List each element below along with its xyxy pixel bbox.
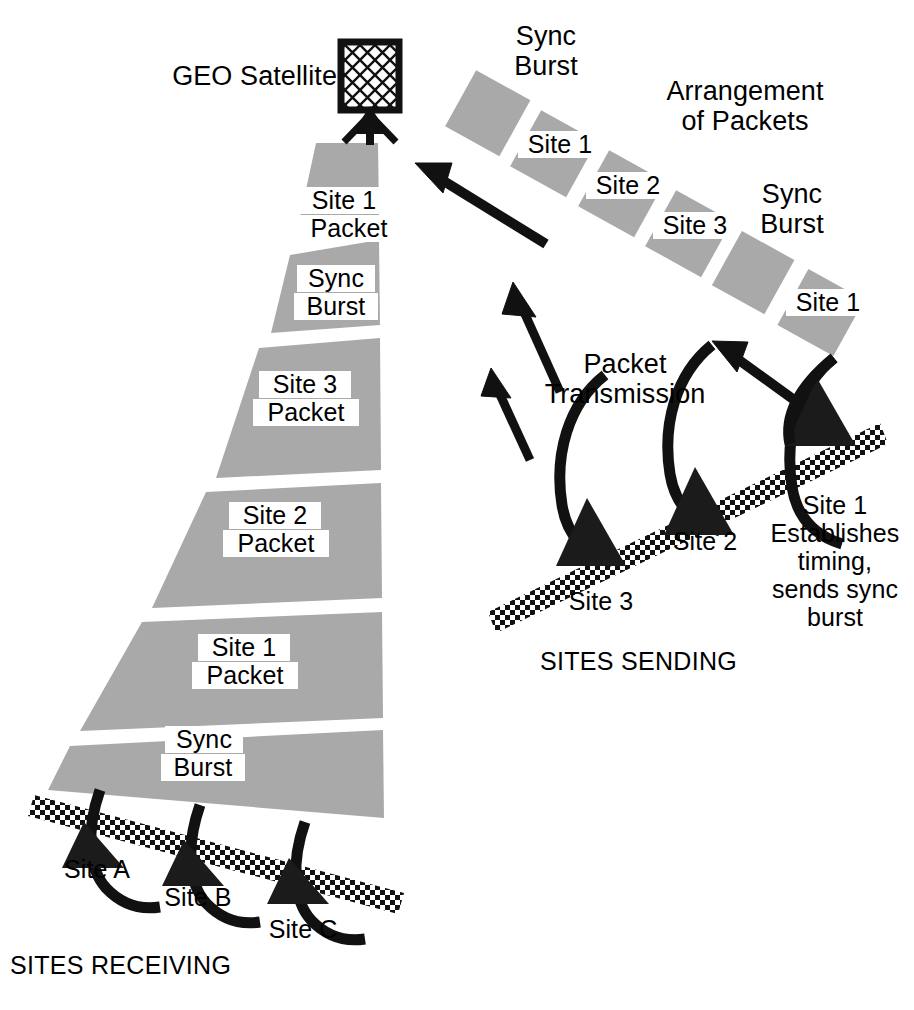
funnel-label-site1-packet-top-line1: Site 1 [298, 187, 390, 214]
satellite-label: GEO Satellite [167, 62, 337, 91]
sending-site-1-note-line3: timing, [760, 548, 910, 575]
sending-site-1-note-line4: sends sync [758, 576, 912, 603]
funnel-label-site1-packet-top-line2: Packet [296, 215, 402, 242]
funnel-label-sync-burst-lower-line2: Burst [161, 754, 245, 781]
receiving-site-a-label: Site A [42, 856, 152, 883]
arrangement-title-line2: of Packets [640, 107, 850, 136]
packet-label-site3: Site 3 [653, 212, 737, 239]
sending-site-3-label: Site 3 [546, 588, 656, 615]
packet-label-site1-a: Site 1 [518, 131, 602, 158]
packet-sync-2 [712, 231, 795, 314]
sending-site-1-note-line5: burst [760, 604, 910, 631]
sites-receiving-caption: SITES RECEIVING [10, 952, 280, 979]
funnel-label-site1-packet-line2: Packet [192, 662, 298, 689]
funnel-label-site1-packet-line1: Site 1 [198, 634, 290, 661]
sites-sending-caption: SITES SENDING [540, 648, 800, 675]
packet-transmission-label-line1: Packet [540, 350, 710, 379]
packet-label-site1-b: Site 1 [786, 289, 870, 316]
sending-site-1-note-line1: Site 1 [760, 492, 910, 519]
satellite-antenna-icon [341, 42, 399, 145]
funnel-label-site2-packet-line2: Packet [223, 530, 329, 557]
receiving-site-c-label: Site C [248, 916, 358, 943]
diagram-canvas: GEO Satellite Site 1 Packet Sync Burst S… [0, 0, 914, 1010]
packet-label-site2: Site 2 [586, 172, 670, 199]
sending-site-2-label: Site 2 [650, 528, 760, 555]
transmission-arrow-small [481, 368, 530, 460]
funnel-label-sync-burst-lower-line1: Sync [165, 726, 243, 753]
funnel-label-sync-burst-upper-line2: Burst [294, 293, 378, 320]
arrangement-sync-right-line2: Burst [741, 210, 843, 239]
arrangement-sync-left-line1: Sync [498, 22, 594, 51]
sending-site-1-note-line2: Establishes [760, 520, 910, 547]
receiving-funnel [48, 143, 384, 818]
funnel-label-site2-packet-line1: Site 2 [229, 502, 321, 529]
funnel-label-sync-burst-upper-line1: Sync [297, 265, 375, 292]
packet-transmission-label-line2: Transmission [530, 380, 720, 409]
arrangement-sync-left-line2: Burst [495, 52, 597, 81]
receiving-site-b-label: Site B [143, 884, 253, 911]
arrangement-sync-right-line1: Sync [744, 180, 840, 209]
arrangement-title-line1: Arrangement [640, 77, 850, 106]
funnel-label-site3-packet-line1: Site 3 [259, 371, 351, 398]
funnel-label-site3-packet-line2: Packet [253, 399, 359, 426]
